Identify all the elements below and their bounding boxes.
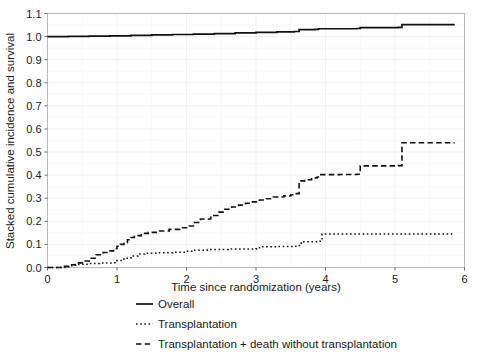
x-tick-label: 6 <box>461 273 467 285</box>
chart-background <box>0 0 483 359</box>
y-axis-title: Stacked cumulative incidence and surviva… <box>4 33 16 249</box>
legend-label: Transplantation + death without transpla… <box>158 338 397 350</box>
y-tick-label: 0.6 <box>26 123 41 135</box>
y-tick-label: 0.4 <box>26 169 41 181</box>
y-tick-label: 0.0 <box>26 262 41 274</box>
chart-container: 0.00.10.20.30.40.50.60.70.80.91.01.1 012… <box>0 0 483 359</box>
x-axis-title: Time since randomization (years) <box>171 281 341 293</box>
y-tick-label: 0.7 <box>26 100 41 112</box>
y-tick-label: 1.1 <box>26 8 41 20</box>
legend-label: Overall <box>158 298 194 310</box>
y-tick-label: 0.2 <box>26 215 41 227</box>
y-tick-label: 0.5 <box>26 146 41 158</box>
y-tick-label: 0.8 <box>26 77 41 89</box>
x-tick-label: 0 <box>44 273 50 285</box>
x-tick-label: 5 <box>392 273 398 285</box>
y-tick-label: 0.9 <box>26 54 41 66</box>
legend-label: Transplantation <box>158 318 237 330</box>
x-tick-label: 1 <box>114 273 120 285</box>
legend-item-transplantation-death-without-transplantation: Transplantation + death without transpla… <box>136 338 397 350</box>
y-tick-label: 0.3 <box>26 192 41 204</box>
y-tick-label: 0.1 <box>26 238 41 250</box>
y-tick-label: 1.0 <box>26 31 41 43</box>
survival-curve-chart: 0.00.10.20.30.40.50.60.70.80.91.01.1 012… <box>0 0 483 359</box>
